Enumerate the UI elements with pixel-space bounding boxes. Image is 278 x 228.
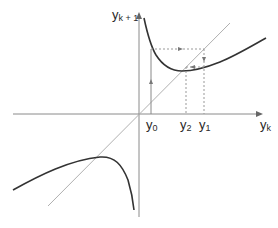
up-arrow-icon [149, 79, 153, 84]
right-arrow-icon [178, 47, 183, 51]
left-arrow-icon [190, 65, 195, 69]
cobweb-diagram: yk + 1 yk y0 y2 y1 [0, 0, 278, 228]
y2-label: y2 [180, 117, 192, 133]
upper-curve-branch [144, 18, 266, 71]
down-arrow-icon [202, 57, 206, 62]
y-axis-label: yk + 1 [112, 7, 138, 23]
y0-label: y0 [146, 117, 158, 133]
lower-curve-branch [13, 157, 134, 210]
y1-label: y1 [199, 117, 211, 133]
x-axis-label: yk [260, 117, 272, 133]
